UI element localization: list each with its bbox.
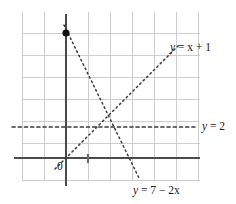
- label-line2-expression: = 2: [207, 120, 225, 132]
- data-points: [62, 29, 69, 36]
- line-y-equals-x-plus-1: [55, 44, 180, 169]
- graph-canvas: [0, 0, 236, 204]
- label-line-y-equals-7-minus-2x: y = 7 − 2x: [133, 185, 180, 197]
- line-y-equals-7-minus-2x: [64, 25, 140, 180]
- origin-label: 0: [57, 161, 63, 173]
- label-line1-expression: = x + 1: [175, 41, 211, 53]
- point-marker-0-7: [62, 29, 69, 36]
- label-line-y-equals-x-plus-1: y = x + 1: [170, 42, 211, 54]
- graph-figure: y = x + 1 y = 2 y = 7 − 2x 0: [0, 0, 236, 204]
- axes: [14, 14, 200, 186]
- grid-lines: [22, 12, 200, 180]
- label-line3-expression: = 7 − 2x: [138, 184, 180, 196]
- label-line-y-equals-2: y = 2: [202, 121, 225, 133]
- plotted-lines: [12, 25, 195, 180]
